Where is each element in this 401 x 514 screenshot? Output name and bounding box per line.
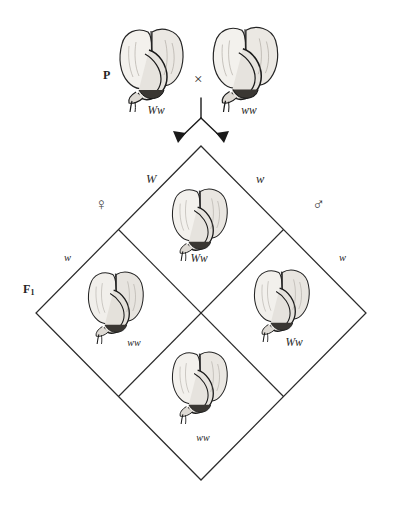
offspring-genotype-bottom: ww: [186, 433, 220, 443]
parental-generation-label: P: [103, 69, 111, 81]
parent-left-genotype: Ww: [141, 105, 171, 117]
offspring-flower-bottom: [164, 344, 240, 424]
offspring-flower-top: [164, 181, 240, 261]
female-symbol: ♀: [95, 196, 108, 213]
parental-label-text: P: [103, 68, 111, 82]
offspring-flower-right: [246, 262, 322, 342]
cross-arrow-heads: [173, 131, 229, 143]
parent-right-genotype: ww: [234, 105, 264, 117]
parent-flower-right: [208, 18, 288, 112]
gamete-label-bottom-left: w: [64, 253, 71, 264]
punnett-square-diagram: P: [0, 0, 401, 514]
parent-flower-left: [115, 20, 193, 112]
pea-flower-drawing: [172, 352, 227, 424]
pea-flower-drawing: [172, 189, 227, 261]
offspring-flower-left: [80, 264, 156, 344]
f1-label-subscript: 1: [31, 288, 35, 297]
f1-generation-label: F1: [23, 283, 35, 295]
pea-flower-drawing: [254, 270, 309, 342]
offspring-genotype-top: Ww: [182, 253, 216, 265]
cross-symbol: ×: [194, 72, 202, 87]
offspring-genotype-right: Ww: [277, 337, 311, 349]
pea-flower-drawing: [120, 29, 183, 112]
gamete-label-top-right: w: [256, 173, 264, 186]
gamete-label-top-left: W: [146, 173, 156, 186]
male-symbol: ♂: [312, 196, 325, 213]
offspring-genotype-left: ww: [117, 338, 151, 348]
f1-label-text: F: [23, 282, 31, 296]
gamete-label-bottom-right: w: [339, 253, 346, 264]
pea-flower-drawing: [88, 272, 143, 344]
pea-flower-drawing: [213, 27, 277, 112]
